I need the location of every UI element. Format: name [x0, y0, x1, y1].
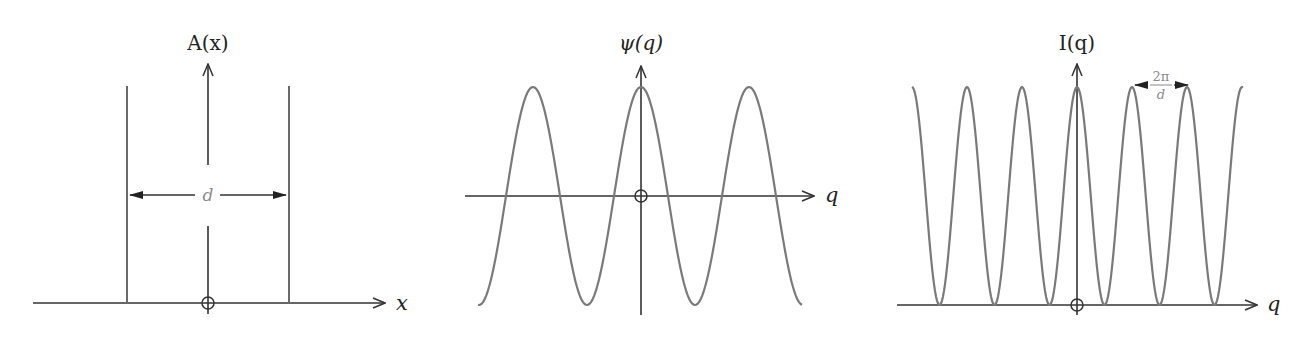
diffraction-figure: A(x) x d ψ(q) q I(q) q 2π d — [0, 0, 1308, 342]
dimension-label-d: d — [203, 185, 214, 205]
y-label-aperture: A(x) — [186, 31, 228, 55]
x-label-intensity: q — [1267, 292, 1280, 316]
panel-amplitude — [465, 66, 814, 315]
panel-intensity — [897, 64, 1257, 315]
period-label-numerator: 2π — [1153, 69, 1170, 84]
period-label-denominator: d — [1157, 87, 1165, 102]
x-label-aperture: x — [396, 291, 408, 315]
x-label-amplitude: q — [825, 183, 838, 207]
y-label-amplitude: ψ(q) — [619, 31, 663, 55]
y-label-intensity: I(q) — [1059, 31, 1095, 55]
